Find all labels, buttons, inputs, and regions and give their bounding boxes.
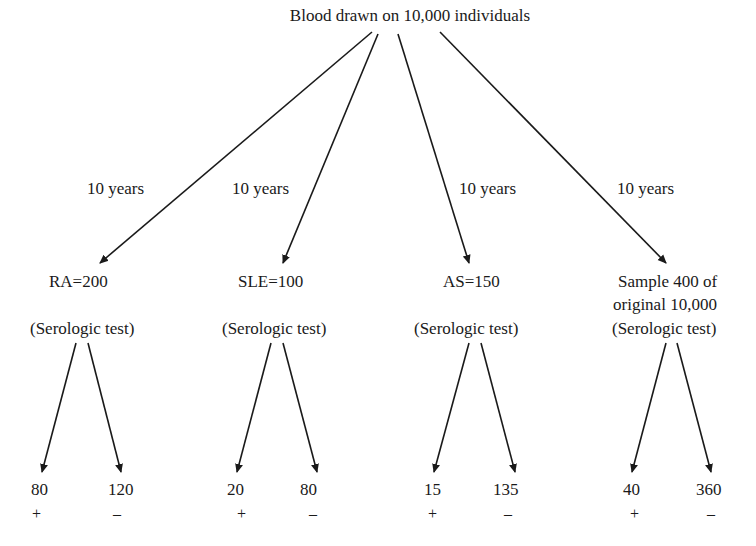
arrow-as-positive — [434, 343, 469, 472]
result-sign-sle-negative: – — [309, 504, 317, 524]
result-sign-as-negative: – — [504, 504, 512, 524]
interval-label-sle: 10 years — [232, 179, 289, 199]
result-count-sle-negative: 80 — [300, 480, 317, 500]
arrow-root-to-sample — [440, 32, 666, 263]
interval-label-ra: 10 years — [87, 179, 144, 199]
group-label-sle: SLE=100 — [238, 272, 303, 292]
test-label-sle: (Serologic test) — [222, 319, 326, 339]
arrow-sample-negative — [677, 343, 711, 472]
result-count-sample-positive: 40 — [623, 480, 640, 500]
test-label-as: (Serologic test) — [414, 319, 518, 339]
arrow-ra-negative — [88, 343, 121, 472]
result-count-as-negative: 135 — [493, 480, 519, 500]
group-label-ra: RA=200 — [49, 272, 108, 292]
result-count-sample-negative: 360 — [696, 480, 722, 500]
arrow-as-negative — [481, 343, 515, 472]
result-count-sle-positive: 20 — [227, 480, 244, 500]
result-sign-as-positive: + — [428, 504, 437, 524]
result-count-as-positive: 15 — [424, 480, 441, 500]
test-label-ra: (Serologic test) — [30, 319, 134, 339]
result-sign-ra-positive: + — [32, 504, 41, 524]
result-count-ra-positive: 80 — [31, 480, 48, 500]
arrow-ra-positive — [42, 343, 76, 472]
result-sign-sample-positive: + — [630, 504, 639, 524]
root-label: Blood drawn on 10,000 individuals — [290, 6, 530, 26]
arrow-sample-positive — [632, 343, 666, 472]
result-count-ra-negative: 120 — [108, 480, 134, 500]
arrow-sle-negative — [283, 343, 317, 472]
interval-label-as: 10 years — [459, 179, 516, 199]
result-sign-sample-negative: – — [707, 504, 715, 524]
group-label-sample-line2: original 10,000 — [613, 295, 717, 315]
interval-label-sample: 10 years — [617, 179, 674, 199]
test-label-sample: (Serologic test) — [612, 319, 716, 339]
arrow-sle-positive — [237, 343, 271, 472]
group-label-as: AS=150 — [443, 272, 500, 292]
group-label-sample-line1: Sample 400 of — [618, 272, 717, 292]
result-sign-ra-negative: – — [113, 504, 121, 524]
result-sign-sle-positive: + — [237, 504, 246, 524]
arrow-root-to-sle — [283, 34, 378, 263]
arrow-root-to-as — [398, 34, 469, 263]
